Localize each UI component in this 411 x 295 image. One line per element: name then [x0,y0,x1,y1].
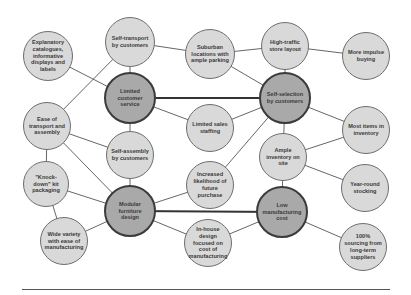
node-label: Most items in inventory [343,123,389,137]
node-low_cost: Low manufacturing cost [256,186,308,238]
node-knock_down: "Knock-down" kit packaging [23,161,69,207]
node-limited_staff: Limited sales staffing [186,104,234,152]
node-label: Wide variety with ease of manufacturing [41,231,88,252]
node-label: "Knock-down" kit packaging [24,174,68,195]
node-suburban: Suburban locations with ample parking [185,29,235,79]
node-ease_transport: Ease of transport and assembly [23,102,71,150]
node-label: Ease of transport and assembly [24,116,70,137]
node-limited_service: Limited customer service [104,72,156,124]
node-self_assembly: Self-assembly by customers [106,131,154,179]
node-label: Self-transport by customers [106,35,154,49]
node-label: 100% sourcing from long-term suppliers [340,233,386,261]
node-label: Explanatory catalogues, informative disp… [24,39,72,74]
node-explanatory: Explanatory catalogues, informative disp… [23,31,73,81]
node-modular: Modular furniture design [104,185,156,237]
node-most_items: Most items in inventory [342,106,390,154]
node-label: Ample inventory on site [260,147,306,168]
node-sourcing: 100% sourcing from long-term suppliers [339,223,387,271]
node-label: Limited customer service [106,88,154,109]
node-in_house: In-house design focused on cost of manuf… [184,219,232,267]
node-label: Limited sales staffing [187,121,233,135]
node-label: High-traffic store layout [262,39,308,53]
node-label: Self-assembly by customers [107,148,153,162]
node-year_round: Year-round stocking [341,164,389,212]
node-label: Suburban locations with ample parking [186,44,234,65]
node-label: Year-round stocking [342,181,388,195]
node-high_traffic: High-traffic store layout [261,22,309,70]
node-increased: Increased likelihood of future purchase [186,161,234,209]
node-self_selection: Self-selection by customers [259,72,311,124]
node-ample_inventory: Ample inventory on site [259,133,307,181]
node-label: More impulse buying [343,49,389,63]
footer-rule [22,289,390,290]
node-wide_variety: Wide variety with ease of manufacturing [40,217,88,265]
node-label: Low manufacturing cost [258,202,306,223]
node-label: Increased likelihood of future purchase [187,171,233,199]
node-self_transport: Self-transport by customers [105,17,155,67]
node-label: Modular furniture design [106,201,154,222]
activity-system-diagram: Explanatory catalogues, informative disp… [0,0,411,295]
node-label: In-house design focused on cost of manuf… [185,226,232,261]
node-label: Self-selection by customers [261,91,309,105]
node-impulse: More impulse buying [342,32,390,80]
